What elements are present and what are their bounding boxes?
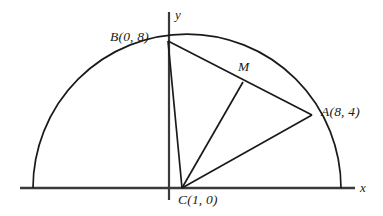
point-label-c: C(1, 0) (178, 193, 218, 207)
point-label-a: A(8, 4) (321, 105, 360, 119)
y-axis-label: y (175, 8, 181, 21)
x-axis-label: x (360, 181, 366, 194)
segment-c-m (182, 82, 243, 188)
segment-b-a (168, 41, 312, 115)
point-label-b: B(0, 8) (110, 30, 149, 44)
semicircle-arc (33, 34, 341, 188)
geometry-diagram: B(0, 8) A(8, 4) C(1, 0) M y x (0, 0, 383, 216)
segment-b-c (168, 41, 182, 188)
point-label-m: M (238, 60, 249, 74)
segment-c-a (182, 115, 312, 188)
